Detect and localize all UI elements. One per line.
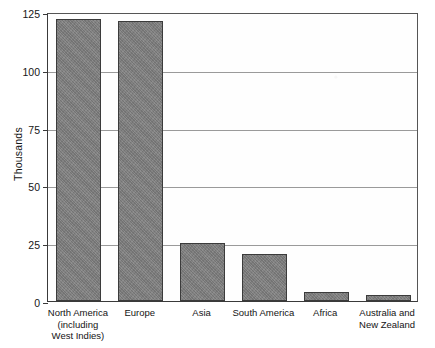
bar-series	[48, 14, 417, 301]
y-tick-label-50: 50	[28, 181, 40, 193]
y-tick-label-100: 100	[22, 66, 40, 78]
bar-south-america	[242, 254, 287, 301]
bar-europe	[118, 21, 163, 301]
bar-africa	[304, 292, 349, 301]
y-tick-label-75: 75	[28, 124, 40, 136]
category-label-australia-nz: Australia and New Zealand	[341, 307, 433, 330]
bar-chart: Thousands 125 100 75 50 25 0	[0, 0, 435, 348]
bar-australia-nz	[366, 295, 411, 301]
plot-area: 125 100 75 50 25 0	[47, 13, 418, 302]
y-tick-label-125: 125	[22, 8, 40, 20]
y-axis-title: Thousands	[12, 106, 24, 202]
y-tick-0	[43, 303, 48, 304]
bar-asia	[180, 243, 225, 301]
bar-north-america	[56, 19, 101, 301]
y-tick-label-25: 25	[28, 239, 40, 251]
